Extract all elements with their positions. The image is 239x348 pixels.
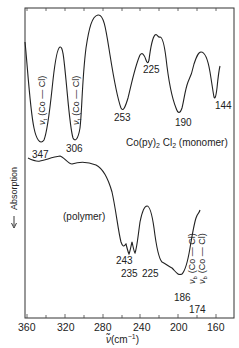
- peak-label-186: 186: [174, 292, 191, 303]
- assignment-nu-b-2: νb(Co — Cl): [197, 233, 208, 284]
- assignment-nu-t-2: νt(Co — Cl): [71, 76, 82, 125]
- y-axis-label: Absorption: [9, 167, 19, 210]
- monomer-label: Co(py)2 Cl2 (monomer): [126, 137, 228, 149]
- arrow-down-icon: [12, 216, 17, 228]
- x-tick-240: 240: [133, 321, 151, 333]
- polymer-curve: [28, 156, 200, 275]
- x-tick-200: 200: [170, 321, 188, 333]
- svg-text:νt(Co — Cl): νt(Co — Cl): [71, 76, 82, 125]
- peak-label-190: 190: [175, 117, 192, 128]
- x-tick-280: 280: [94, 321, 112, 333]
- peak-label-253: 253: [114, 112, 131, 123]
- svg-text:Absorption: Absorption: [9, 167, 19, 210]
- x-axis-label: ν̃(cm−1): [106, 333, 139, 345]
- peak-label-144: 144: [215, 100, 232, 111]
- peak-label-235: 235: [121, 268, 138, 279]
- assignment-nu-t-1: νt(Co — Cl): [37, 76, 48, 125]
- peak-label-243: 243: [116, 255, 133, 266]
- peak-label-347: 347: [32, 149, 49, 160]
- peak-label-225-monomer: 225: [143, 64, 160, 75]
- svg-text:νb(Co — Cl): νb(Co — Cl): [197, 233, 208, 284]
- peak-label-174: 174: [189, 304, 206, 315]
- x-tick-360: 360: [18, 321, 36, 333]
- ir-spectrum-chart: 347 306 253 225 190 144 νt(Co — Cl) νt(C…: [0, 0, 239, 348]
- polymer-label: (polymer): [63, 211, 105, 222]
- x-tick-320: 320: [57, 321, 75, 333]
- x-tick-160: 160: [207, 321, 225, 333]
- peak-label-225-polymer: 225: [142, 268, 159, 279]
- peak-label-306: 306: [66, 143, 83, 154]
- svg-text:νt(Co — Cl): νt(Co — Cl): [37, 76, 48, 125]
- bottom-ticks: [27, 314, 216, 318]
